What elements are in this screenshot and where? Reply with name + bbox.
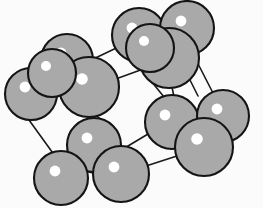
atom-sphere-icon xyxy=(34,151,88,205)
atom-sphere-icon xyxy=(126,24,174,72)
atom-sphere-icon xyxy=(175,118,233,176)
atom-highlight-icon xyxy=(20,82,31,93)
atom-edge-upper-left-back xyxy=(28,49,76,97)
atom-sphere-icon xyxy=(93,146,149,202)
atom-highlight-icon xyxy=(76,73,88,85)
atom-corner-bottom-left xyxy=(34,151,88,205)
atom-corner-front-bottom xyxy=(93,146,149,202)
atom-highlight-icon xyxy=(139,36,149,46)
lattice-diagram xyxy=(0,0,263,208)
atom-highlight-icon xyxy=(176,16,187,27)
atom-sphere-icon xyxy=(28,49,76,97)
atom-highlight-icon xyxy=(82,133,93,144)
atom-highlight-icon xyxy=(109,162,120,173)
atom-highlight-icon xyxy=(191,133,203,145)
atom-highlight-icon xyxy=(212,104,223,115)
atom-highlight-icon xyxy=(50,166,61,177)
atom-highlight-icon xyxy=(41,61,51,71)
atom-highlight-icon xyxy=(160,110,171,121)
crystal-unit-cell-figure xyxy=(0,0,263,208)
atom-face-front-right xyxy=(175,118,233,176)
atom-face-back-top xyxy=(126,24,174,72)
